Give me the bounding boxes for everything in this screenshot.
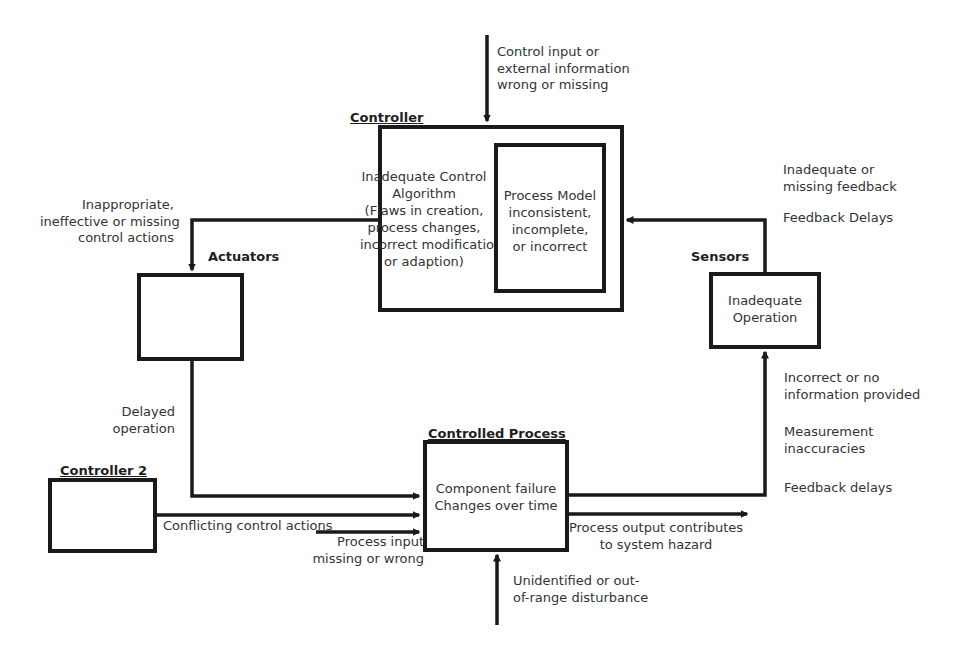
controller2-title: Controller 2 [60,463,147,478]
control-actions-label: Inappropriate, ineffective or missing co… [40,197,174,247]
controller-title: Controller [350,110,423,125]
process-input-label: Process input missing or wrong [290,534,424,567]
control-algorithm-text: Inadequate Control Algorithm (Flaws in c… [360,168,488,270]
actuators-box [137,273,244,361]
controlled-process-title: Controlled Process [428,426,566,441]
feedback-label: Inadequate or missing feedback [783,162,897,195]
feedback-delays-bottom-label: Feedback delays [784,480,892,497]
disturbance-label: Unidentified or out- of-range disturbanc… [513,573,648,606]
actuators-title: Actuators [208,249,279,264]
controlled-process-text: Component failure Changes over time [423,480,569,514]
output-hazard-label: Process output contributes to system haz… [568,520,744,553]
measurement-label: Measurement inaccuracies [784,424,873,457]
sensors-title: Sensors [691,249,749,264]
controller2-box [48,478,157,553]
process-model-text: Process Model inconsistent, incomplete, … [494,187,606,255]
sensors-text: Inadequate Operation [709,292,821,326]
incorrect-info-label: Incorrect or no information provided [784,370,920,403]
feedback-delays-top-label: Feedback Delays [783,210,893,227]
delayed-operation-label: Delayed operation [100,404,175,437]
conflicting-actions-label: Conflicting control actions [163,518,333,535]
control-input-label: Control input or external information wr… [497,44,630,94]
